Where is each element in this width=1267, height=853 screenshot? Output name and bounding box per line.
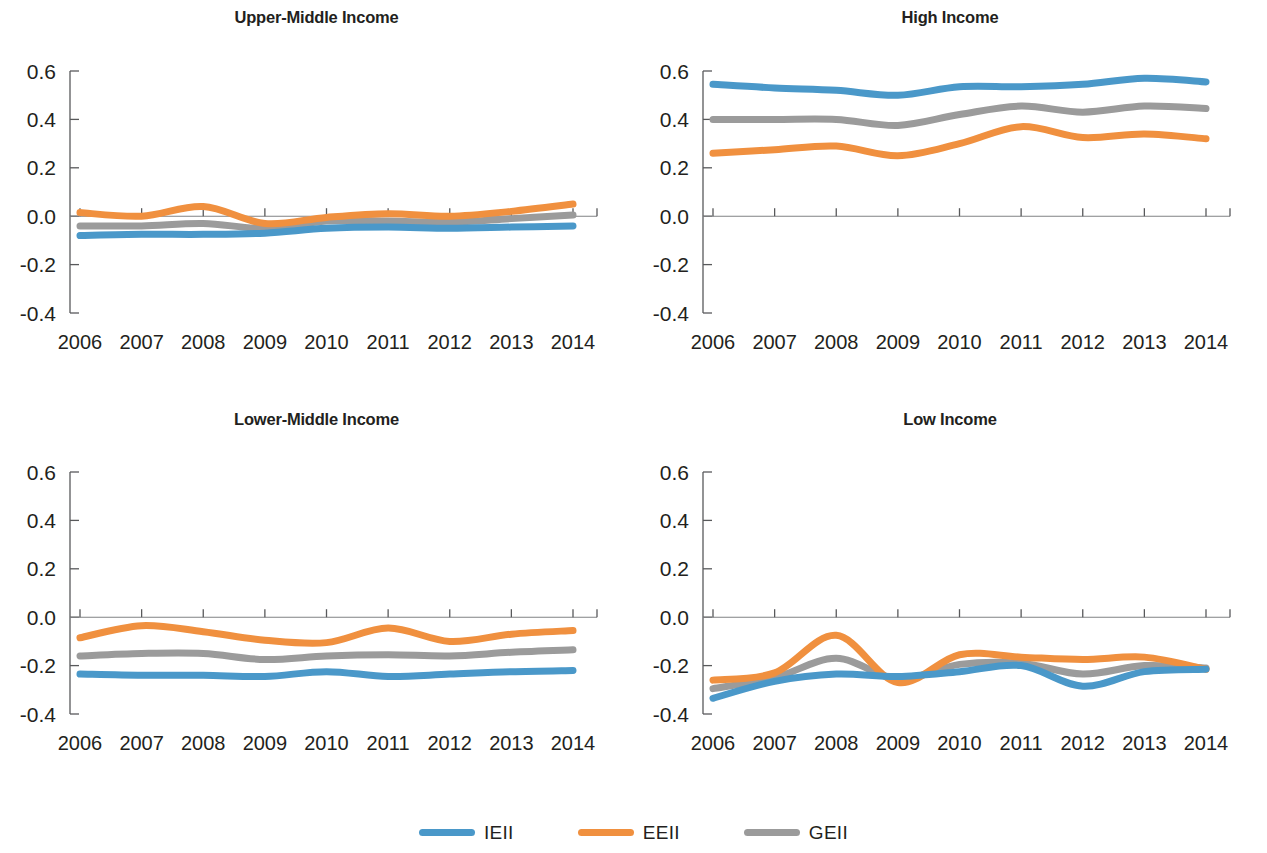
x-axis-tick-label: 2007 xyxy=(119,331,164,353)
panel-high-income: High Income 0.60.40.20.0-0.2-0.420062007… xyxy=(633,0,1267,388)
panel-low-income: Low Income 0.60.40.20.0-0.2-0.4200620072… xyxy=(633,388,1267,790)
legend-label: IEII xyxy=(484,823,514,842)
y-axis-tick-label: 0.2 xyxy=(27,557,56,580)
x-axis-tick-label: 2012 xyxy=(428,732,473,754)
x-axis-tick-label: 2008 xyxy=(181,732,226,754)
y-axis-tick-label: -0.4 xyxy=(20,703,57,726)
x-axis-tick-label: 2010 xyxy=(937,331,982,353)
legend-label: GEII xyxy=(809,823,848,842)
x-axis-tick-label: 2011 xyxy=(1000,732,1043,754)
x-axis-tick-label: 2011 xyxy=(367,732,410,754)
x-axis-tick-label: 2010 xyxy=(304,331,349,353)
x-axis-tick-label: 2006 xyxy=(691,331,736,353)
y-axis-tick-label: 0.2 xyxy=(27,156,56,179)
y-axis-tick-label: 0.0 xyxy=(27,205,56,228)
panel-title: Lower-Middle Income xyxy=(0,410,633,429)
x-axis-tick-label: 2011 xyxy=(1000,331,1043,353)
line-swatch-icon xyxy=(578,829,634,836)
panel-title: Upper-Middle Income xyxy=(0,8,633,27)
x-axis-tick-label: 2008 xyxy=(814,732,859,754)
y-axis-tick-label: -0.2 xyxy=(20,253,56,276)
plot-area: 0.60.40.20.0-0.2-0.420062007200820092010… xyxy=(12,456,622,756)
y-axis-tick-label: 0.2 xyxy=(660,557,689,580)
x-axis-tick-label: 2012 xyxy=(1061,732,1106,754)
x-axis-tick-label: 2007 xyxy=(752,732,797,754)
chart-grid: Upper-Middle Income 0.60.40.20.0-0.2-0.4… xyxy=(0,0,1267,790)
panel-title: High Income xyxy=(633,8,1267,27)
y-axis-tick-label: 0.0 xyxy=(660,205,689,228)
x-axis-tick-label: 2009 xyxy=(876,331,921,353)
line-swatch-icon xyxy=(744,829,800,836)
x-axis-tick-label: 2008 xyxy=(814,331,859,353)
y-axis-tick-label: -0.2 xyxy=(20,654,56,677)
x-axis-tick-label: 2007 xyxy=(119,732,164,754)
x-axis-tick-label: 2009 xyxy=(876,732,921,754)
x-axis-tick-label: 2006 xyxy=(58,732,103,754)
legend-item-geii[interactable]: GEII xyxy=(744,823,848,842)
x-axis-tick-label: 2006 xyxy=(58,331,103,353)
line-swatch-icon xyxy=(419,829,475,836)
series-line-eeii xyxy=(713,127,1206,156)
x-axis-tick-label: 2010 xyxy=(937,732,982,754)
series-line-ieii xyxy=(713,78,1206,95)
x-axis-tick-label: 2014 xyxy=(551,732,596,754)
y-axis-tick-label: 0.4 xyxy=(660,509,690,532)
series-line-geii xyxy=(713,106,1206,126)
x-axis-tick-label: 2008 xyxy=(181,331,226,353)
x-axis-tick-label: 2014 xyxy=(1184,732,1229,754)
y-axis-tick-label: -0.4 xyxy=(20,302,57,325)
y-axis-tick-label: 0.6 xyxy=(27,461,56,484)
x-axis-tick-label: 2013 xyxy=(1122,331,1167,353)
legend-item-ieii[interactable]: IEII xyxy=(419,823,514,842)
series-line-eeii xyxy=(80,626,573,644)
x-axis-tick-label: 2012 xyxy=(428,331,473,353)
y-axis-tick-label: 0.0 xyxy=(660,606,689,629)
plot-area: 0.60.40.20.0-0.2-0.420062007200820092010… xyxy=(645,55,1255,355)
x-axis-tick-label: 2013 xyxy=(489,331,534,353)
x-axis-tick-label: 2013 xyxy=(489,732,534,754)
y-axis-tick-label: -0.4 xyxy=(653,703,690,726)
panel-upper-middle-income: Upper-Middle Income 0.60.40.20.0-0.2-0.4… xyxy=(0,0,633,388)
x-axis-tick-label: 2014 xyxy=(1184,331,1229,353)
y-axis-tick-label: 0.6 xyxy=(660,60,689,83)
series-line-ieii xyxy=(80,670,573,676)
x-axis-tick-label: 2012 xyxy=(1061,331,1106,353)
x-axis-tick-label: 2011 xyxy=(367,331,410,353)
chart-legend: IEII EEII GEII xyxy=(0,812,1267,853)
legend-label: EEII xyxy=(643,823,680,842)
x-axis-tick-label: 2013 xyxy=(1122,732,1167,754)
x-axis-tick-label: 2007 xyxy=(752,331,797,353)
y-axis-tick-label: 0.2 xyxy=(660,156,689,179)
x-axis-tick-label: 2010 xyxy=(304,732,349,754)
panel-title: Low Income xyxy=(633,410,1267,429)
y-axis-tick-label: 0.4 xyxy=(27,509,57,532)
y-axis-tick-label: -0.4 xyxy=(653,302,690,325)
x-axis-tick-label: 2009 xyxy=(243,331,288,353)
panel-lower-middle-income: Lower-Middle Income 0.60.40.20.0-0.2-0.4… xyxy=(0,388,633,790)
x-axis-tick-label: 2006 xyxy=(691,732,736,754)
series-line-geii xyxy=(80,650,573,660)
y-axis-tick-label: -0.2 xyxy=(653,253,689,276)
x-axis-tick-label: 2014 xyxy=(551,331,596,353)
plot-area: 0.60.40.20.0-0.2-0.420062007200820092010… xyxy=(645,456,1255,756)
y-axis-tick-label: 0.6 xyxy=(660,461,689,484)
y-axis-tick-label: -0.2 xyxy=(653,654,689,677)
x-axis-tick-label: 2009 xyxy=(243,732,288,754)
y-axis-tick-label: 0.4 xyxy=(660,108,690,131)
y-axis-tick-label: 0.4 xyxy=(27,108,57,131)
y-axis-tick-label: 0.6 xyxy=(27,60,56,83)
legend-item-eeii[interactable]: EEII xyxy=(578,823,680,842)
plot-area: 0.60.40.20.0-0.2-0.420062007200820092010… xyxy=(12,55,622,355)
y-axis-tick-label: 0.0 xyxy=(27,606,56,629)
